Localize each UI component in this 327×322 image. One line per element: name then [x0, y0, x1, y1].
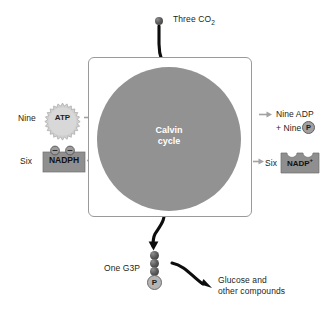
- calvin-cycle-label-line1: Calvin: [97, 125, 241, 136]
- g3p-label: One G3P: [104, 263, 140, 274]
- calvin-cycle-label-line2: cycle: [97, 136, 241, 147]
- nadp-output-arrow: [253, 159, 264, 165]
- nadp-plus-label: NADP+: [281, 157, 319, 168]
- nine-phosphate-label: + Nine: [276, 123, 301, 134]
- glucose-label: Glucose and other compounds: [218, 275, 318, 296]
- g3p-phosphate-icon: P: [147, 275, 162, 290]
- glucose-label-line2: other compounds: [218, 286, 318, 297]
- calvin-cycle-label: Calvin cycle: [97, 125, 241, 147]
- atp-label: ATP: [44, 113, 81, 122]
- nadph-label: NADPH: [43, 155, 85, 165]
- co2-label: Three CO2: [173, 14, 215, 28]
- phosphate-circle-icon: P: [302, 121, 315, 134]
- adp-label: Nine ADP: [276, 109, 314, 120]
- nadp-plus-charge: +: [310, 157, 314, 163]
- adp-output-arrow: [259, 112, 272, 118]
- co2-molecule-icon: [155, 17, 163, 25]
- g3p-phosphate-symbol: P: [148, 276, 161, 289]
- phosphate-symbol: P: [303, 122, 314, 133]
- glucose-output-arrow: [172, 263, 212, 288]
- atp-count-label: Nine: [18, 113, 36, 124]
- glucose-label-line1: Glucose and: [218, 275, 318, 286]
- nadp-plus-count-label: Six: [265, 158, 277, 169]
- nadp-plus-name: NADP: [287, 159, 310, 168]
- nadph-count-label: Six: [20, 156, 32, 167]
